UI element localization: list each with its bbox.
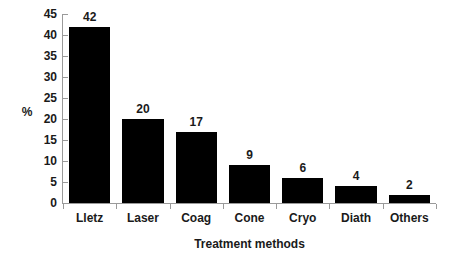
y-axis-tick-labels: 051015202530354045: [24, 0, 57, 261]
x-axis-tick-mark: [276, 204, 277, 209]
bar[interactable]: [335, 186, 376, 203]
y-axis-tick-label: 0: [24, 197, 57, 209]
bar-slot: 6: [276, 14, 329, 203]
y-axis-tick-mark: [63, 98, 68, 99]
y-axis-tick-mark: [63, 140, 68, 141]
x-axis-tick-mark: [383, 204, 384, 209]
x-axis-category-label: Diath: [329, 212, 382, 224]
bar-slot: 4: [329, 14, 382, 203]
x-axis-line: [62, 203, 436, 204]
y-axis-tick-label: 35: [24, 50, 57, 62]
bar-value-label: 2: [383, 179, 436, 191]
bar[interactable]: [282, 178, 323, 203]
x-axis-tick-mark: [170, 204, 171, 209]
bar[interactable]: [389, 195, 430, 203]
x-axis-tick-mark: [436, 204, 437, 209]
x-axis-tick-mark: [116, 204, 117, 209]
x-axis-category-label: Coag: [170, 212, 223, 224]
y-axis-tick-label: 20: [24, 113, 57, 125]
y-axis-tick-mark: [63, 77, 68, 78]
bar-slot: 20: [116, 14, 169, 203]
y-axis-tick-label: 5: [24, 176, 57, 188]
x-axis-title: Treatment methods: [63, 237, 436, 251]
bar-value-label: 9: [223, 149, 276, 161]
x-axis-category-label: Others: [383, 212, 436, 224]
bar[interactable]: [69, 27, 110, 203]
bar-value-label: 42: [63, 11, 116, 23]
y-axis-tick-mark: [63, 56, 68, 57]
bar-value-label: 20: [116, 103, 169, 115]
bar-slot: 42: [63, 14, 116, 203]
y-axis-tick-label: 30: [24, 71, 57, 83]
x-axis-tick-mark: [223, 204, 224, 209]
bar[interactable]: [176, 132, 217, 203]
x-axis-category-label: Cone: [223, 212, 276, 224]
y-axis-tick-label: 40: [24, 29, 57, 41]
y-axis-tick-label: 45: [24, 8, 57, 20]
y-axis-tick-label: 15: [24, 134, 57, 146]
bar[interactable]: [229, 165, 270, 203]
x-axis-category-label: Laser: [116, 212, 169, 224]
y-axis-tick-mark: [63, 35, 68, 36]
bar-value-label: 4: [329, 170, 382, 182]
y-axis-tick-label: 10: [24, 155, 57, 167]
x-axis-category-label: Lletz: [63, 212, 116, 224]
y-axis-tick-mark: [63, 182, 68, 183]
bar-slot: 9: [223, 14, 276, 203]
x-axis-category-label: Cryo: [276, 212, 329, 224]
bar-chart: % 051015202530354045 4220179642 Treatmen…: [0, 0, 461, 261]
bar-value-label: 6: [276, 162, 329, 174]
bar-slot: 2: [383, 14, 436, 203]
y-axis-tick-label: 25: [24, 92, 57, 104]
x-axis-tick-mark: [63, 204, 64, 209]
y-axis-tick-mark: [63, 14, 68, 15]
bar-value-label: 17: [170, 116, 223, 128]
plot-area: 4220179642: [63, 14, 436, 203]
bar-slot: 17: [170, 14, 223, 203]
bar[interactable]: [122, 119, 163, 203]
y-axis-tick-mark: [63, 119, 68, 120]
x-axis-tick-mark: [329, 204, 330, 209]
y-axis-tick-mark: [63, 161, 68, 162]
